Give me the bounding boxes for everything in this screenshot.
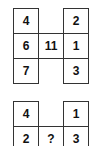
number: 3 bbox=[73, 132, 80, 146]
number: 7 bbox=[23, 64, 30, 78]
number: 2 bbox=[23, 132, 30, 146]
question-cell-top-right: 1 bbox=[63, 101, 89, 127]
question-cell-mid-right: 3 bbox=[63, 126, 89, 146]
example-cell-bottom-right: 3 bbox=[63, 58, 89, 84]
example-cell-center: 11 bbox=[38, 33, 64, 59]
number: 11 bbox=[45, 39, 58, 53]
question-cell-top-left: 4 bbox=[13, 101, 39, 127]
number: 4 bbox=[23, 14, 30, 28]
unknown-number: ? bbox=[47, 132, 54, 146]
example-cell-mid-left: 6 bbox=[13, 33, 39, 59]
question-cell-mid-left: 2 bbox=[13, 126, 39, 146]
number: 6 bbox=[23, 39, 30, 53]
example-cell-mid-right: 1 bbox=[63, 33, 89, 59]
number: 4 bbox=[23, 107, 30, 121]
number: 1 bbox=[73, 39, 80, 53]
example-cell-bottom-left: 7 bbox=[13, 58, 39, 84]
number: 3 bbox=[73, 64, 80, 78]
question-cell-center: ? bbox=[38, 126, 64, 146]
example-cell-top-right: 2 bbox=[63, 8, 89, 34]
number: 1 bbox=[73, 107, 80, 121]
example-cell-top-left: 4 bbox=[13, 8, 39, 34]
number: 2 bbox=[73, 14, 80, 28]
